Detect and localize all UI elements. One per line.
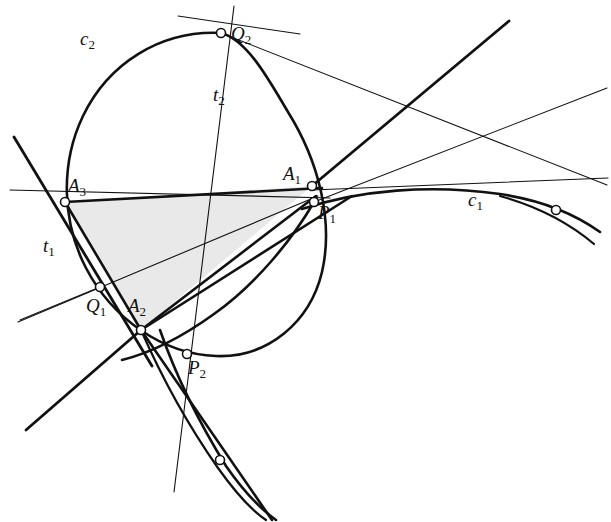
label-A3-subscript: 3 bbox=[80, 184, 87, 199]
label-t1-subscript: 1 bbox=[48, 244, 55, 259]
label-Q2-subscript: 2 bbox=[245, 32, 252, 47]
label-P1-base: P bbox=[317, 202, 330, 223]
point-Q1[interactable] bbox=[96, 283, 105, 292]
label-A2-base: A bbox=[126, 295, 140, 316]
label-P2-subscript: 2 bbox=[200, 366, 207, 381]
label-Q1-subscript: 1 bbox=[100, 304, 107, 319]
label-A1-base: A bbox=[281, 163, 295, 184]
point-A2[interactable] bbox=[137, 326, 146, 335]
label-t2-subscript: 2 bbox=[218, 93, 225, 108]
label-c2-subscript: 2 bbox=[88, 37, 95, 52]
label-P2-base: P bbox=[187, 357, 200, 378]
figure-background bbox=[0, 0, 611, 522]
point-A3[interactable] bbox=[61, 198, 70, 207]
label-A1-subscript: 1 bbox=[295, 172, 302, 187]
geometry-figure: c2Q2t2A3A1P1c1t1Q1A2P2 bbox=[0, 0, 611, 522]
label-A2-subscript: 2 bbox=[140, 304, 147, 319]
label-c1-subscript: 1 bbox=[476, 198, 483, 213]
label-Q1-base: Q bbox=[86, 295, 100, 316]
point-Q2[interactable] bbox=[217, 29, 226, 38]
figure-canvas: c2Q2t2A3A1P1c1t1Q1A2P2 bbox=[0, 0, 611, 522]
point-free-on-c1[interactable] bbox=[552, 206, 561, 215]
label-Q2-base: Q bbox=[231, 23, 245, 44]
point-free-on-c2-branch[interactable] bbox=[216, 456, 225, 465]
label-A3-base: A bbox=[66, 175, 80, 196]
point-A1[interactable] bbox=[308, 182, 317, 191]
label-P1-subscript: 1 bbox=[330, 211, 337, 226]
